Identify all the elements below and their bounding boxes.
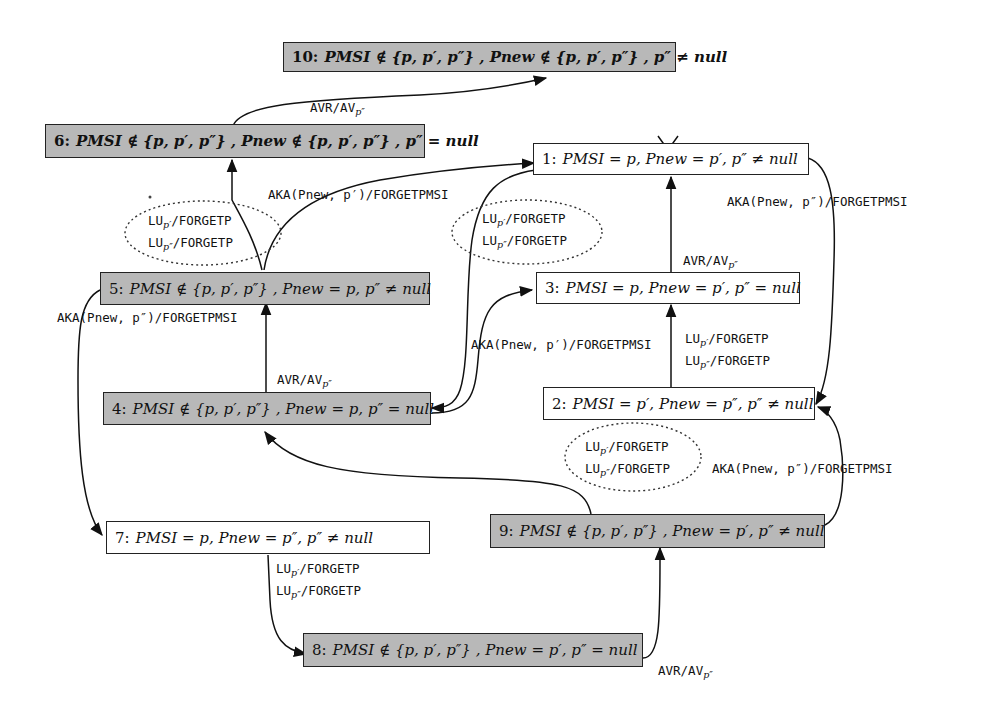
label-aka-1-2: AKA(Pnew, p″)/FORGETPMSI xyxy=(727,193,908,211)
state-number: 6: xyxy=(54,132,70,150)
state-number: 9: xyxy=(499,522,514,540)
label-lu-9-4: LUp′/FORGETP LUp″/FORGETP xyxy=(585,438,670,482)
label-avr-3-1: AVR/AVp″ xyxy=(683,252,738,274)
label-aka-5-7: AKA(Pnew, p″)/FORGETPMSI xyxy=(57,309,238,327)
state-3: 3: PMSI = p, Pnew = p′, p″ = null xyxy=(536,272,800,304)
edge-1-4 xyxy=(432,170,536,408)
state-condition: PMSI ∉ {p, p′, p″} , Pnew = p, p″ = null xyxy=(133,400,435,418)
label-aka-9-2: AKA(Pnew, p″)/FORGETPMSI xyxy=(712,460,893,478)
label-lu-1-4: LUp′/FORGETP LUp″/FORGETP xyxy=(482,210,567,254)
edge-9-4 xyxy=(265,432,591,514)
state-10: 10: PMSI ∉ {p, p′, p″} , Pnew ∉ {p, p′, … xyxy=(283,42,676,72)
state-1: 1: PMSI = p, Pnew = p′, p″ ≠ null xyxy=(533,143,809,175)
state-number: 2: xyxy=(552,395,567,413)
label-avr-4-5: AVR/AVp″ xyxy=(277,371,332,393)
stray-dot xyxy=(149,196,152,199)
state-condition: PMSI ∉ {p, p′, p″} , Pnew ∉ {p, p′, p″} … xyxy=(324,48,727,66)
state-diagram: 10: PMSI ∉ {p, p′, p″} , Pnew ∉ {p, p′, … xyxy=(0,0,983,708)
state-number: 4: xyxy=(112,400,127,418)
label-avr-6-10: AVR/AVp″ xyxy=(310,99,365,121)
state-9: 9: PMSI ∉ {p, p′, p″} , Pnew = p′, p″ ≠ … xyxy=(490,514,825,548)
label-aka-4-3: AKA(Pnew, p′)/FORGETPMSI xyxy=(471,336,652,354)
state-number: 7: xyxy=(115,529,130,547)
state-number: 5: xyxy=(109,280,124,298)
label-avr-8-9: AVR/AVp″ xyxy=(658,662,713,684)
state-4: 4: PMSI ∉ {p, p′, p″} , Pnew = p, p″ = n… xyxy=(103,392,431,425)
state-condition: PMSI = p, Pnew = p′, p″ ≠ null xyxy=(563,150,798,168)
state-number: 1: xyxy=(542,150,557,168)
label-lu-2-3: LUp′/FORGETP LUp″/FORGETP xyxy=(685,330,770,374)
edge-6-10 xyxy=(233,78,546,126)
edges-layer xyxy=(0,0,983,708)
state-condition: PMSI ∉ {p, p′, p″} , Pnew = p, p″ ≠ null xyxy=(130,280,432,298)
state-7: 7: PMSI = p, Pnew = p″, p″ ≠ null xyxy=(106,521,430,554)
state-8: 8: PMSI ∉ {p, p′, p″} , Pnew = p′, p″ = … xyxy=(303,633,643,667)
state-condition: PMSI = p, Pnew = p″, p″ ≠ null xyxy=(136,529,373,547)
label-lu-7-8: LUp′/FORGETP LUp″/FORGETP xyxy=(276,560,361,604)
state-6: 6: PMSI ∉ {p, p′, p″} , Pnew ∉ {p, p′, p… xyxy=(45,124,425,158)
state-condition: PMSI = p, Pnew = p′, p″ = null xyxy=(566,279,801,297)
state-condition: PMSI ∉ {p, p′, p″} , Pnew = p′, p″ ≠ nul… xyxy=(520,522,825,540)
state-condition: PMSI = p′, Pnew = p″, p″ ≠ null xyxy=(573,395,814,413)
state-5: 5: PMSI ∉ {p, p′, p″} , Pnew = p, p″ ≠ n… xyxy=(100,272,430,305)
label-lu-5-6: LUp′/FORGETP LUp″/FORGETP xyxy=(148,212,233,256)
edge-8-9 xyxy=(643,548,660,658)
state-2: 2: PMSI = p′, Pnew = p″, p″ ≠ null xyxy=(543,387,815,420)
state-number: 3: xyxy=(545,279,560,297)
state-condition: PMSI ∉ {p, p′, p″} , Pnew ∉ {p, p′, p″} … xyxy=(76,132,479,150)
label-aka-5-1: AKA(Pnew, p′)/FORGETPMSI xyxy=(268,186,449,204)
state-number: 10: xyxy=(292,48,318,66)
edge-5-6 xyxy=(232,160,262,270)
state-condition: PMSI ∉ {p, p′, p″} , Pnew = p′, p″ = nul… xyxy=(333,641,638,659)
state-number: 8: xyxy=(312,641,327,659)
